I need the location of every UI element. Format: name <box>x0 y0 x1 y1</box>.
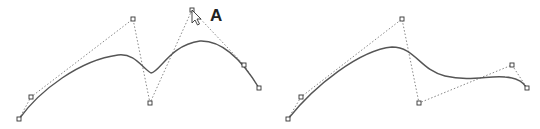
control-point-handle[interactable] <box>299 95 303 99</box>
mouse-cursor-icon <box>192 10 201 25</box>
bezier-figure-right <box>286 17 529 121</box>
point-label-a: A <box>210 6 222 26</box>
control-point-handle[interactable] <box>131 17 135 21</box>
control-point-handle[interactable] <box>148 101 152 105</box>
bezier-figure-left <box>17 8 261 121</box>
control-point-handle[interactable] <box>400 17 404 21</box>
spline-curve <box>288 47 527 119</box>
bezier-diagram <box>0 0 540 129</box>
control-point-handle[interactable] <box>510 63 514 67</box>
control-polygon <box>288 19 527 119</box>
control-point-handle[interactable] <box>286 117 290 121</box>
control-point-handle[interactable] <box>417 101 421 105</box>
control-point-handle[interactable] <box>17 117 21 121</box>
control-point-handle[interactable] <box>525 86 529 90</box>
control-polygon <box>19 10 259 119</box>
spline-curve <box>19 41 259 119</box>
control-point-handle[interactable] <box>242 63 246 67</box>
control-point-handle[interactable] <box>29 95 33 99</box>
control-point-handle[interactable] <box>257 86 261 90</box>
